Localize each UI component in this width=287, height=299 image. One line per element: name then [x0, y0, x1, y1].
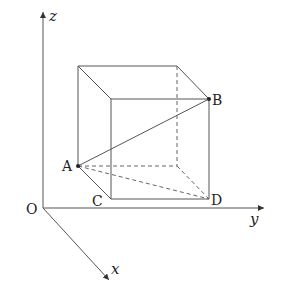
- point-b: [207, 97, 211, 101]
- point-d-label: D: [211, 192, 222, 208]
- point-a: [76, 164, 80, 168]
- y-axis-label: y: [249, 210, 259, 228]
- x-axis-label: x: [111, 260, 120, 278]
- point-c-label: C: [92, 193, 103, 209]
- segment-ab: [78, 99, 209, 166]
- axes: [43, 12, 264, 280]
- origin-label: O: [26, 201, 37, 217]
- point-a-label: A: [61, 158, 73, 174]
- point-b-label: B: [212, 92, 222, 108]
- x-axis: [43, 208, 109, 280]
- z-axis-label: z: [48, 7, 57, 25]
- cube-diagram: z y x O A B C D: [0, 0, 287, 299]
